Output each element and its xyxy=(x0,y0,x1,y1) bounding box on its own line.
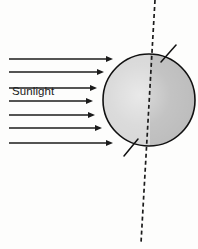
sunlight-ray-1 xyxy=(9,56,113,62)
sunlight-ray-5-head xyxy=(88,112,95,118)
sunlight-ray-2 xyxy=(9,69,104,75)
sunlight-ray-7-head xyxy=(106,140,113,146)
sunlight-ray-7 xyxy=(9,140,113,146)
sunlight-label: Sunlight xyxy=(12,85,54,97)
sunlight-ray-6 xyxy=(9,125,102,131)
sunlight-ray-5 xyxy=(9,112,95,118)
sunlight-ray-2-head xyxy=(97,69,104,75)
sunlight-ray-4-head xyxy=(86,98,93,104)
sunlight-ray-group xyxy=(9,56,113,146)
sunlight-ray-4 xyxy=(9,98,93,104)
sunlight-ray-3-head xyxy=(90,85,97,91)
diagram-canvas xyxy=(0,0,198,249)
sunlight-ray-6-head xyxy=(95,125,102,131)
sunlight-earth-diagram: Sunlight xyxy=(0,0,198,249)
sunlight-ray-1-head xyxy=(106,56,113,62)
